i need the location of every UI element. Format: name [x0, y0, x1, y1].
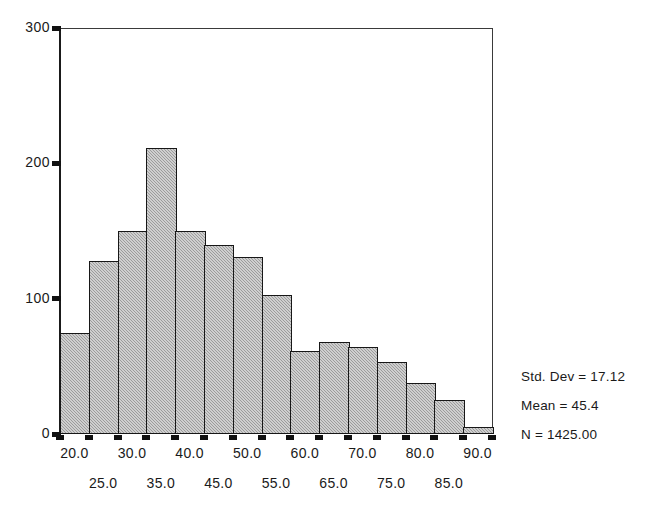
- x-axis-tick: [373, 435, 381, 440]
- n-label: N = 1425.00: [521, 420, 663, 449]
- histogram-bar: [146, 148, 176, 434]
- x-axis-tick: [488, 435, 496, 440]
- x-axis-label: 35.0: [133, 476, 189, 491]
- histogram-bar: [60, 333, 90, 435]
- histogram-bar: [89, 261, 119, 434]
- x-axis-tick: [402, 435, 410, 440]
- x-axis-tick: [430, 435, 438, 440]
- x-axis-tick: [459, 435, 467, 440]
- x-axis-tick: [142, 435, 150, 440]
- histogram-bar: [233, 257, 263, 434]
- histogram-bar: [463, 427, 493, 434]
- statistics-box: Std. Dev = 17.12 Mean = 45.4 N = 1425.00: [521, 362, 663, 449]
- histogram-bars: [60, 28, 492, 434]
- histogram-bar: [377, 362, 407, 434]
- x-axis-label: 85.0: [421, 476, 477, 491]
- x-axis-tick: [200, 435, 208, 440]
- x-axis-label: 80.0: [392, 446, 448, 461]
- mean-label: Mean = 45.4: [521, 391, 663, 420]
- histogram-bar: [290, 351, 320, 434]
- x-axis-label: 70.0: [334, 446, 390, 461]
- std-dev-label: Std. Dev = 17.12: [521, 362, 663, 391]
- x-axis-label: 20.0: [46, 446, 102, 461]
- x-axis-label: 60.0: [277, 446, 333, 461]
- x-axis-tick: [114, 435, 122, 440]
- y-axis-label: 300: [4, 20, 50, 34]
- x-axis-label: 25.0: [75, 476, 131, 491]
- x-axis-label: 55.0: [248, 476, 304, 491]
- histogram-bar: [175, 231, 205, 434]
- x-axis-tick: [85, 435, 93, 440]
- x-axis-tick: [258, 435, 266, 440]
- histogram-figure: 0100200300 20.025.030.035.040.045.050.05…: [0, 0, 668, 532]
- y-axis-label: 0: [4, 426, 50, 440]
- x-axis-label: 45.0: [190, 476, 246, 491]
- histogram-bar: [118, 231, 148, 434]
- x-axis-label: 50.0: [219, 446, 275, 461]
- histogram-bar: [319, 342, 349, 434]
- x-axis-tick: [171, 435, 179, 440]
- x-axis-label: 30.0: [104, 446, 160, 461]
- x-axis-tick: [286, 435, 294, 440]
- y-axis-label: 100: [4, 291, 50, 305]
- x-axis-label: 65.0: [306, 476, 362, 491]
- histogram-bar: [406, 383, 436, 434]
- histogram-bar: [348, 347, 378, 434]
- histogram-bar: [262, 295, 292, 434]
- x-axis-tick: [56, 435, 64, 440]
- x-axis-label: 40.0: [162, 446, 218, 461]
- x-axis-tick: [315, 435, 323, 440]
- x-axis-tick: [229, 435, 237, 440]
- x-axis-label: 90.0: [450, 446, 506, 461]
- histogram-bar: [204, 245, 234, 434]
- x-axis-label: 75.0: [363, 476, 419, 491]
- histogram-bar: [434, 400, 464, 434]
- y-axis-label: 200: [4, 155, 50, 169]
- x-axis-tick: [344, 435, 352, 440]
